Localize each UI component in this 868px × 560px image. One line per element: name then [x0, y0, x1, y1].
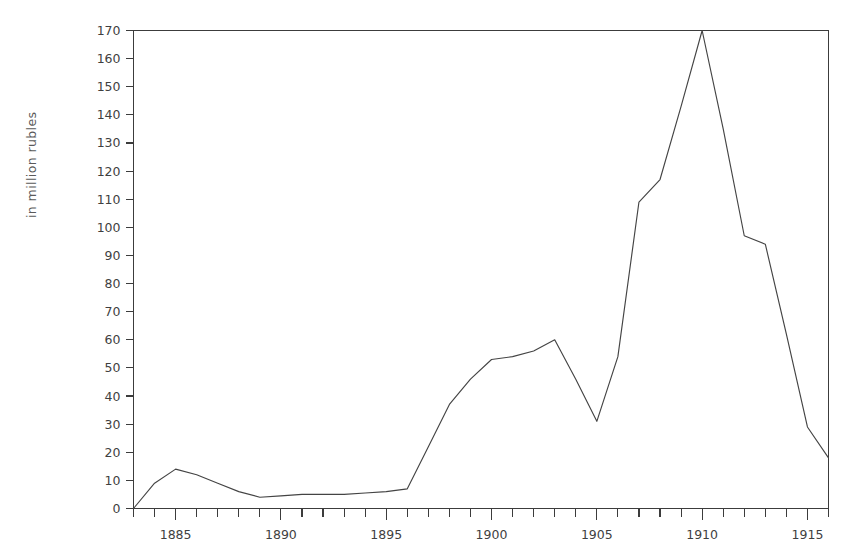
- y-axis-tick-label: 80: [105, 276, 121, 291]
- y-axis-tick-label: 160: [97, 51, 121, 66]
- y-axis-tick-label: 40: [105, 389, 121, 404]
- x-axis-tick-label: 1900: [476, 527, 508, 542]
- x-axis-tick-label: 1915: [792, 527, 824, 542]
- x-axis-tick-label: 1910: [686, 527, 718, 542]
- y-axis-tick-label: 120: [97, 164, 121, 179]
- y-axis-tick-label: 170: [97, 23, 121, 38]
- y-axis-tick-label: 50: [105, 360, 121, 375]
- x-axis-tick-label: 1885: [160, 527, 192, 542]
- y-axis-tick-label: 70: [105, 304, 121, 319]
- y-axis-tick-label: 110: [97, 192, 121, 207]
- x-axis-tick-label: 1905: [581, 527, 613, 542]
- y-axis-tick-label: 90: [105, 248, 121, 263]
- y-axis-tick-label: 60: [105, 332, 121, 347]
- y-axis-tick-label: 140: [97, 107, 121, 122]
- y-axis-tick-label: 130: [97, 135, 121, 150]
- y-axis-tick-label: 0: [113, 501, 121, 516]
- y-axis-tick-label: 150: [97, 79, 121, 94]
- data-series-line: [134, 31, 829, 509]
- y-axis-tick-label: 20: [105, 445, 121, 460]
- plot-frame: [134, 31, 829, 509]
- y-axis-tick-label: 10: [105, 473, 121, 488]
- y-axis-tick-label: 100: [97, 220, 121, 235]
- chart-container: in million rubles 0102030405060708090100…: [0, 0, 868, 560]
- chart-plot-area: 0102030405060708090100110120130140150160…: [0, 0, 868, 560]
- x-axis-tick-label: 1890: [265, 527, 297, 542]
- y-axis-tick-group: 0102030405060708090100110120130140150160…: [97, 23, 134, 516]
- x-axis-tick-label: 1895: [370, 527, 402, 542]
- y-axis-tick-label: 30: [105, 417, 121, 432]
- x-axis-tick-group: 1885189018951900190519101915: [134, 509, 829, 542]
